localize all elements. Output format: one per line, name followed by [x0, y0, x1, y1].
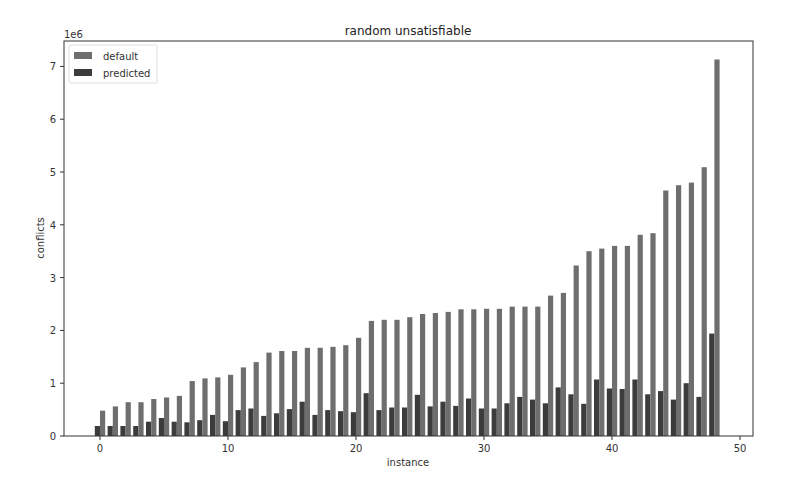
bar-predicted [351, 412, 356, 436]
bar-default [279, 351, 284, 436]
bar-predicted [376, 410, 381, 436]
legend-label-predicted: predicted [103, 68, 150, 79]
bar-predicted [568, 394, 573, 436]
bar-predicted [274, 413, 279, 436]
bar-predicted [261, 416, 266, 436]
x-axis-ticks: 01020304050 [97, 436, 747, 454]
x-tick-label: 50 [734, 443, 747, 454]
bar-chart: random unsatisfiable 1e6 01234567 010203… [0, 0, 787, 499]
x-axis-label: instance [387, 457, 429, 468]
bar-default [126, 402, 131, 436]
bar-default [318, 348, 323, 436]
bar-predicted [402, 408, 407, 437]
bar-predicted [581, 404, 586, 436]
bar-default [305, 348, 310, 436]
bar-default [586, 251, 591, 436]
bar-default [343, 345, 348, 436]
y-offset-label: 1e6 [64, 29, 83, 40]
bar-predicted [223, 421, 228, 436]
bar-default [266, 353, 271, 436]
y-tick-label: 1 [50, 378, 56, 389]
bar-default [433, 313, 438, 436]
bar-default [702, 167, 707, 436]
legend-swatch-default [74, 52, 92, 59]
bar-predicted [632, 380, 637, 437]
bar-predicted [556, 387, 561, 436]
bar-default [471, 309, 476, 436]
bar-default [458, 309, 463, 436]
bar-predicted [300, 402, 305, 436]
bar-predicted [709, 334, 714, 436]
bar-predicted [645, 394, 650, 436]
bar-default [510, 307, 515, 436]
bar-default [241, 367, 246, 436]
bar-default [484, 309, 489, 436]
bar-predicted [172, 422, 177, 436]
bar-default [202, 378, 207, 436]
legend-label-default: default [103, 51, 138, 62]
bar-predicted [530, 400, 535, 436]
bar-default [215, 377, 220, 436]
bar-predicted [389, 408, 394, 437]
y-tick-label: 4 [50, 220, 56, 231]
bar-predicted [184, 422, 189, 436]
bar-predicted [594, 380, 599, 437]
bar-default [138, 402, 143, 436]
bar-default [638, 235, 643, 436]
bar-default [356, 338, 361, 436]
bar-default [497, 309, 502, 436]
bar-predicted [671, 400, 676, 436]
y-tick-label: 7 [50, 61, 56, 72]
legend-swatch-predicted [74, 69, 92, 76]
chart-title: random unsatisfiable [345, 24, 472, 38]
bar-default [714, 60, 719, 437]
bar-predicted [440, 402, 445, 436]
bar-predicted [108, 426, 113, 436]
bar-predicted [517, 397, 522, 436]
bar-predicted [159, 418, 164, 436]
bar-default [113, 406, 118, 436]
bar-predicted [312, 415, 317, 436]
bar-predicted [466, 399, 471, 437]
bar-predicted [210, 415, 215, 436]
bar-default [625, 246, 630, 436]
bar-default [574, 266, 579, 437]
bar-default [650, 233, 655, 436]
bar-default [548, 296, 553, 436]
bar-predicted [453, 406, 458, 436]
y-tick-label: 6 [50, 114, 56, 125]
bar-default [663, 191, 668, 437]
bar-default [407, 317, 412, 436]
bar-predicted [146, 422, 151, 436]
bar-default [369, 321, 374, 436]
bar-default [561, 293, 566, 436]
x-tick-label: 10 [222, 443, 235, 454]
bar-predicted [325, 410, 330, 436]
bar-predicted [248, 409, 253, 437]
bar-default [100, 411, 105, 436]
bar-predicted [236, 410, 241, 436]
bar-default [164, 398, 169, 437]
bar-predicted [428, 406, 433, 436]
bar-predicted [492, 409, 497, 437]
bar-default [676, 185, 681, 436]
bar-predicted [287, 409, 292, 436]
y-tick-label: 5 [50, 167, 56, 178]
bar-predicted [658, 391, 663, 436]
bar-default [420, 314, 425, 436]
bar-predicted [120, 426, 125, 436]
bar-predicted [504, 403, 509, 436]
y-axis-label: conflicts [35, 217, 46, 259]
bar-default [382, 320, 387, 436]
bar-default [446, 312, 451, 436]
bar-default [254, 362, 259, 436]
bar-predicted [364, 393, 369, 436]
x-tick-label: 0 [97, 443, 103, 454]
y-tick-label: 2 [50, 325, 56, 336]
bar-default [599, 249, 604, 436]
y-tick-label: 3 [50, 273, 56, 284]
bar-default [522, 307, 527, 436]
bar-predicted [95, 426, 100, 436]
bar-default [177, 396, 182, 436]
bar-predicted [338, 411, 343, 436]
